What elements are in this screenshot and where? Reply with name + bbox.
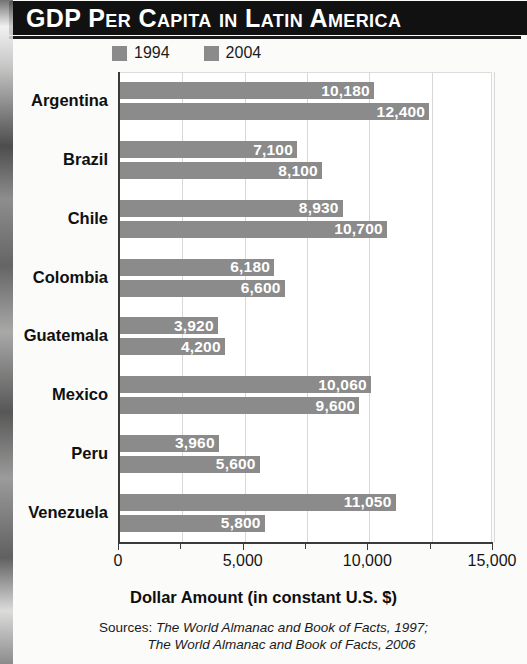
- bar-rect: 10,700: [120, 221, 387, 238]
- bar-rect: 10,180: [120, 82, 374, 99]
- category-label-peru: Peru: [0, 444, 108, 463]
- bar-colombia-1994: 6,180: [120, 259, 274, 276]
- category-label-colombia: Colombia: [0, 268, 108, 287]
- sources-line-1: The World Almanac and Book of Facts, 199…: [156, 620, 428, 635]
- bar-rect: 7,100: [120, 141, 297, 158]
- bar-mexico-2004: 9,600: [120, 397, 359, 414]
- legend-label-2004: 2004: [226, 44, 262, 62]
- bar-value-label: 7,100: [253, 141, 297, 159]
- x-axis-line: [118, 542, 492, 544]
- category-label-brazil: Brazil: [0, 150, 108, 169]
- bar-rect: 5,600: [120, 456, 260, 473]
- bar-value-label: 8,930: [299, 199, 343, 217]
- bar-venezuela-2004: 5,800: [120, 515, 265, 532]
- sources-label: Sources:: [99, 620, 152, 635]
- bar-value-label: 5,800: [221, 514, 265, 532]
- bar-chile-2004: 10,700: [120, 221, 387, 238]
- title-banner: GDP Per Capita in Latin America: [9, 1, 527, 35]
- bar-rect: 3,960: [120, 435, 219, 452]
- bar-brazil-2004: 8,100: [120, 162, 322, 179]
- x-axis-tick-label: 15,000: [468, 552, 517, 570]
- category-label-guatemala: Guatemala: [0, 326, 108, 345]
- category-label-chile: Chile: [0, 209, 108, 228]
- bar-argentina-2004: 12,400: [120, 103, 429, 120]
- bar-rect: 10,060: [120, 376, 371, 393]
- bar-rect: 9,600: [120, 397, 359, 414]
- bar-guatemala-1994: 3,920: [120, 317, 218, 334]
- x-axis-tick-label: 0: [114, 552, 123, 570]
- legend-item-2004: 2004: [204, 44, 262, 62]
- legend-swatch-icon-1994: [112, 46, 127, 61]
- category-label-mexico: Mexico: [0, 385, 108, 404]
- x-axis-tick-label: 5,000: [223, 552, 263, 570]
- bar-chile-1994: 8,930: [120, 200, 343, 217]
- plot-area: 10,18012,4007,1008,1008,93010,7006,1806,…: [118, 72, 492, 542]
- chart-page: GDP Per Capita in Latin America 1994 200…: [0, 0, 527, 664]
- bar-value-label: 6,180: [230, 258, 274, 276]
- legend-swatch-icon-2004: [204, 46, 219, 61]
- bar-brazil-1994: 7,100: [120, 141, 297, 158]
- scan-edge-artifact: [0, 0, 13, 664]
- bar-value-label: 12,400: [377, 103, 430, 121]
- category-label-argentina: Argentina: [0, 91, 108, 110]
- x-axis-tick: [492, 542, 493, 550]
- bar-value-label: 10,700: [334, 220, 387, 238]
- gridline: [369, 72, 370, 542]
- bar-rect: 4,200: [120, 338, 225, 355]
- bar-peru-1994: 3,960: [120, 435, 219, 452]
- bar-rect: 5,800: [120, 515, 265, 532]
- bar-rect: 12,400: [120, 103, 429, 120]
- gridline: [432, 72, 433, 542]
- x-axis-tick-label: 10,000: [343, 552, 392, 570]
- bar-rect: 11,050: [120, 494, 396, 511]
- bar-value-label: 4,200: [181, 338, 225, 356]
- bar-value-label: 3,960: [175, 434, 219, 452]
- gridline: [494, 72, 495, 542]
- bar-value-label: 10,060: [318, 376, 371, 394]
- bar-argentina-1994: 10,180: [120, 82, 374, 99]
- plot-right-border: [491, 72, 492, 542]
- bar-guatemala-2004: 4,200: [120, 338, 225, 355]
- bar-mexico-1994: 10,060: [120, 376, 371, 393]
- legend-item-1994: 1994: [112, 44, 170, 62]
- bar-value-label: 5,600: [216, 455, 260, 473]
- chart-legend: 1994 2004: [112, 44, 261, 62]
- plot-top-border: [120, 72, 492, 73]
- x-axis-title: Dollar Amount (in constant U.S. $): [0, 588, 527, 607]
- bar-peru-2004: 5,600: [120, 456, 260, 473]
- bar-value-label: 10,180: [321, 82, 374, 100]
- title-rule: [9, 36, 521, 39]
- sources-line-2: The World Almanac and Book of Facts, 200…: [147, 637, 415, 652]
- bar-rect: 8,930: [120, 200, 343, 217]
- bar-value-label: 9,600: [316, 397, 360, 415]
- bar-value-label: 8,100: [278, 162, 322, 180]
- bar-colombia-2004: 6,600: [120, 280, 285, 297]
- bar-value-label: 3,920: [174, 317, 218, 335]
- bar-rect: 3,920: [120, 317, 218, 334]
- gridline: [307, 72, 308, 542]
- category-label-venezuela: Venezuela: [0, 503, 108, 522]
- sources-note: Sources: The World Almanac and Book of F…: [0, 620, 527, 654]
- bar-rect: 6,180: [120, 259, 274, 276]
- bar-rect: 8,100: [120, 162, 322, 179]
- bar-value-label: 11,050: [344, 493, 396, 511]
- bar-venezuela-1994: 11,050: [120, 494, 396, 511]
- bar-rect: 6,600: [120, 280, 285, 297]
- page-title: GDP Per Capita in Latin America: [26, 4, 401, 33]
- legend-label-1994: 1994: [134, 44, 170, 62]
- bar-value-label: 6,600: [241, 279, 285, 297]
